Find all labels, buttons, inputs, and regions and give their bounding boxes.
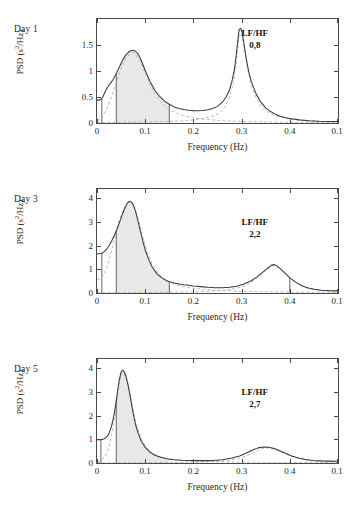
y-axis-title-sup: 2 <box>13 46 20 49</box>
y-axis-tick <box>97 293 101 294</box>
y-axis-tick <box>97 97 101 98</box>
y-axis-tick <box>97 463 101 464</box>
lf-hf-ratio-annotation: LF/HF2,7 <box>242 386 269 410</box>
y-axis-title-suffix: /Hz) <box>15 30 25 46</box>
y-axis-title-sup: 2 <box>13 216 20 219</box>
y-axis-tick <box>334 463 338 464</box>
x-axis-tick <box>145 359 146 363</box>
y-axis-tick-label: 0.5 <box>82 93 93 102</box>
y-axis-tick-label: 3 <box>89 218 94 227</box>
x-axis-title: Frequency (Hz) <box>96 142 339 152</box>
lf-hf-ratio-title: LF/HF <box>242 216 269 228</box>
y-axis-tick <box>97 368 101 369</box>
x-axis-tick <box>193 189 194 193</box>
lf-hf-ratio-annotation: LF/HF2,2 <box>242 216 269 240</box>
y-axis-tick <box>97 246 101 247</box>
y-axis-tick <box>97 123 101 124</box>
y-axis-tick <box>334 123 338 124</box>
x-axis-tick-label: 0.4 <box>284 127 295 136</box>
x-axis-tick <box>337 359 338 363</box>
x-axis-tick <box>193 459 194 463</box>
y-axis-tick <box>97 45 101 46</box>
x-axis-tick-label: 0.3 <box>236 467 247 476</box>
x-axis-tick <box>193 19 194 23</box>
x-axis-tick-label: 0.3 <box>236 297 247 306</box>
x-axis-tick <box>145 459 146 463</box>
psd-curves <box>97 19 338 123</box>
x-axis-tick <box>97 19 98 23</box>
y-axis-tick <box>334 439 338 440</box>
y-axis-tick <box>334 222 338 223</box>
x-axis-tick <box>145 189 146 193</box>
y-axis-tick <box>334 97 338 98</box>
y-axis-tick <box>334 416 338 417</box>
x-axis-tick-label: 0.2 <box>188 297 199 306</box>
x-axis-tick <box>290 189 291 193</box>
y-axis-title: PSD (s2/Hz) <box>13 7 25 97</box>
y-axis-tick-label: 0 <box>89 289 94 298</box>
x-axis-tick <box>193 289 194 293</box>
y-axis-title: PSD (s2/Hz) <box>13 347 25 437</box>
lf-band-shading <box>116 201 169 293</box>
x-axis-tick <box>337 289 338 293</box>
psd-panel-day-1: Day 1 PSD (s2/Hz) 00.511.500.10.20.30.40… <box>0 2 359 172</box>
x-axis-tick <box>337 119 338 123</box>
x-axis-tick-label: 0.1 <box>331 127 342 136</box>
x-axis-tick <box>145 289 146 293</box>
x-axis-tick <box>193 359 194 363</box>
x-axis-tick <box>290 119 291 123</box>
y-axis-title-prefix: PSD (s <box>15 389 25 414</box>
y-axis-title-prefix: PSD (s <box>15 49 25 74</box>
x-axis-tick <box>97 289 98 293</box>
psd-curves <box>97 189 338 293</box>
y-axis-title: PSD (s2/Hz) <box>13 177 25 267</box>
lf-hf-ratio-title: LF/HF <box>242 386 269 398</box>
y-axis-tick <box>334 198 338 199</box>
x-axis-tick <box>242 19 243 23</box>
y-axis-title-prefix: PSD (s <box>15 219 25 244</box>
plot-area-day-3: 0123400.10.20.30.40.1LF/HF2,2 <box>96 188 339 294</box>
lf-hf-ratio-value: 2,2 <box>242 228 269 240</box>
lf-band-shading <box>116 50 169 123</box>
x-axis-tick <box>242 189 243 193</box>
x-axis-tick <box>193 119 194 123</box>
x-axis-tick-label: 0.1 <box>140 467 151 476</box>
x-axis-tick-label: 0.2 <box>188 467 199 476</box>
x-axis-tick-label: 0.1 <box>140 127 151 136</box>
psd-curves <box>97 359 338 463</box>
x-axis-tick <box>337 459 338 463</box>
y-axis-title-suffix: /Hz) <box>15 370 25 386</box>
x-axis-tick-label: 0.4 <box>284 297 295 306</box>
y-axis-tick-label: 2 <box>89 411 94 420</box>
x-axis-tick <box>97 459 98 463</box>
x-axis-tick <box>242 359 243 363</box>
y-axis-tick <box>334 45 338 46</box>
y-axis-tick <box>334 392 338 393</box>
y-axis-tick <box>97 439 101 440</box>
y-axis-tick-label: 0 <box>89 459 94 468</box>
y-axis-tick-label: 2 <box>89 241 94 250</box>
x-axis-tick <box>145 119 146 123</box>
plot-area-day-1: 00.511.500.10.20.30.40.1LF/HF0,8 <box>96 18 339 124</box>
x-axis-tick <box>242 289 243 293</box>
plot-area-day-5: 0123400.10.20.30.40.1LF/HF2,7 <box>96 358 339 464</box>
lf-hf-ratio-value: 0,8 <box>242 39 269 51</box>
x-axis-tick-label: 0 <box>95 467 100 476</box>
plot-canvas <box>97 19 338 123</box>
x-axis-title: Frequency (Hz) <box>96 482 339 492</box>
y-axis-tick-label: 0 <box>89 119 94 128</box>
y-axis-tick <box>334 71 338 72</box>
x-axis-tick-label: 0 <box>95 127 100 136</box>
x-axis-tick <box>145 19 146 23</box>
psd-panel-day-3: Day 3 PSD (s2/Hz) 0123400.10.20.30.40.1L… <box>0 172 359 342</box>
lf-band-shading <box>116 370 169 463</box>
y-axis-title-suffix: /Hz) <box>15 200 25 216</box>
y-axis-tick <box>97 392 101 393</box>
x-axis-tick <box>337 189 338 193</box>
x-axis-tick-label: 0.3 <box>236 127 247 136</box>
y-axis-tick-label: 4 <box>89 194 94 203</box>
lf-hf-ratio-annotation: LF/HF0,8 <box>242 27 269 51</box>
y-axis-tick <box>97 269 101 270</box>
y-axis-tick-label: 1 <box>89 435 94 444</box>
x-axis-tick <box>290 359 291 363</box>
